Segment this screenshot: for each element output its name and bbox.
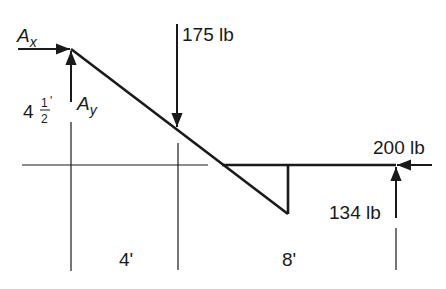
label-span-left: 4': [119, 249, 133, 270]
svg-text:Ay: Ay: [76, 93, 98, 118]
label-force-200: 200 lb: [373, 137, 425, 158]
svg-text:': ': [50, 94, 52, 108]
label-load-175: 175 lb: [182, 24, 234, 45]
dimension-lines: [22, 122, 396, 271]
label-span-right: 8': [282, 249, 296, 270]
label-height-dimension: 4 1 2 ': [23, 94, 52, 126]
inclined-member: [71, 49, 288, 214]
label-ax: Ax: [16, 25, 38, 50]
svg-text:Ax: Ax: [16, 25, 38, 50]
svg-text:2: 2: [41, 112, 48, 126]
svg-text:4: 4: [23, 101, 34, 122]
label-force-134: 134 lb: [329, 202, 381, 223]
beam: [71, 49, 396, 214]
svg-text:1: 1: [41, 96, 48, 110]
free-body-diagram: Ax Ay 4 1 2 ' 175 lb 200 lb 134 lb 4' 8': [0, 0, 446, 289]
label-ay: Ay: [76, 93, 98, 118]
